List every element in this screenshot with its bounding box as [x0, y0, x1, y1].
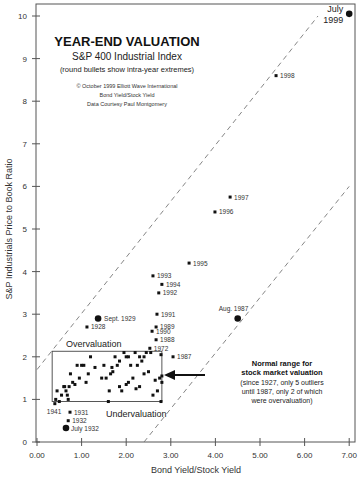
- data-point: [138, 355, 141, 358]
- data-point: [69, 372, 72, 375]
- y-tick-label: 10: [18, 12, 27, 21]
- data-point: [145, 351, 148, 354]
- data-point: [78, 377, 81, 380]
- note-line-2: stock market valuation: [241, 368, 323, 377]
- chart-subtitle-note: (round bullets show intra-year extremes): [60, 65, 195, 74]
- data-point: [67, 398, 70, 401]
- point-label: 1994: [166, 281, 181, 288]
- y-axis-title: S&P Industrials Price to Book Ratio: [4, 159, 14, 300]
- x-tick-label: 4.00: [208, 451, 224, 460]
- point-label: 1988: [160, 336, 175, 343]
- chart-canvas: 0.001.002.003.004.005.006.007.0001234567…: [0, 0, 363, 485]
- data-point: [118, 360, 121, 363]
- point-label: 1972: [154, 345, 169, 352]
- data-point: [148, 347, 151, 350]
- data-point: [66, 394, 69, 397]
- y-tick-label: 9: [23, 55, 28, 64]
- x-tick-label: 5.00: [252, 451, 268, 460]
- extreme-point: [63, 425, 70, 432]
- y-tick-label: 2: [23, 353, 28, 362]
- data-point: [102, 364, 105, 367]
- data-point: [73, 383, 76, 386]
- normal-range-note: Normal range for stock market valuation …: [240, 359, 324, 405]
- y-tick-label: 7: [23, 140, 28, 149]
- x-tick-label: 6.00: [297, 451, 313, 460]
- x-tick-label: 2.00: [118, 451, 134, 460]
- data-point: [156, 389, 159, 392]
- point-label: 1998: [280, 72, 295, 79]
- data-point: [143, 355, 146, 358]
- data-point: [135, 387, 138, 390]
- data-point: [149, 351, 152, 354]
- data-point: [67, 419, 70, 422]
- data-point: [100, 377, 103, 380]
- point-label: 1928: [91, 323, 106, 330]
- y-tick-label: 5: [23, 225, 28, 234]
- y-tick-label: 3: [23, 310, 28, 319]
- extreme-point: [346, 11, 353, 18]
- data-point: [275, 74, 278, 77]
- data-point: [116, 364, 119, 367]
- data-point: [93, 366, 96, 369]
- credit-line-3: Data Courtesy Paul Montgomery: [87, 101, 167, 107]
- data-point: [213, 210, 216, 213]
- y-tick-label: 6: [23, 182, 28, 191]
- data-point: [58, 400, 61, 403]
- data-point: [120, 389, 123, 392]
- point-label: 1932: [72, 417, 87, 424]
- data-point: [56, 389, 59, 392]
- credit-line-1: © October 1999 Elliott Wave Internationa…: [76, 83, 177, 89]
- point-label: 1941: [47, 408, 62, 415]
- data-point: [85, 325, 88, 328]
- data-point: [76, 364, 79, 367]
- data-point: [82, 364, 85, 367]
- data-point: [131, 377, 134, 380]
- data-point: [108, 389, 111, 392]
- point-label: July 1932: [71, 425, 99, 433]
- point-label: 1990: [156, 328, 171, 335]
- data-point: [69, 411, 72, 414]
- point-label: 1995: [193, 260, 208, 267]
- data-point: [129, 364, 132, 367]
- data-point: [151, 394, 154, 397]
- data-point: [110, 366, 113, 369]
- point-label: 1997: [234, 194, 249, 201]
- note-line-1: Normal range for: [252, 359, 313, 368]
- point-label: 1991: [161, 311, 176, 318]
- x-tick-label: 0.00: [29, 451, 45, 460]
- chart-subtitle: S&P 400 Industrial Index: [72, 51, 182, 62]
- data-point: [127, 381, 130, 384]
- data-point: [107, 400, 110, 403]
- point-label: 1992: [163, 289, 178, 296]
- data-point: [138, 385, 141, 388]
- arrow-icon: [164, 370, 205, 380]
- data-point: [54, 398, 57, 401]
- note-line-3: (since 1927, only 5 outliers: [240, 379, 324, 387]
- data-point: [151, 274, 154, 277]
- data-point: [53, 402, 56, 405]
- note-line-5: were overvaluation): [250, 397, 312, 405]
- extreme-point: [95, 315, 102, 322]
- data-point: [114, 355, 117, 358]
- data-point: [118, 385, 121, 388]
- data-point: [154, 379, 157, 382]
- chart-title: YEAR-END VALUATION: [54, 34, 199, 49]
- point-label: 1996: [219, 208, 234, 215]
- x-tick-label: 7.00: [341, 451, 357, 460]
- data-point: [85, 381, 88, 384]
- data-point: [105, 377, 108, 380]
- undervaluation-label: Undervaluation: [106, 409, 167, 419]
- y-tick-label: 1: [23, 395, 28, 404]
- data-point: [111, 370, 114, 373]
- data-point: [127, 355, 130, 358]
- credit-line-2: Bond Yield/Stock Yield: [99, 92, 154, 98]
- data-point: [160, 374, 163, 377]
- y-tick-label: 4: [23, 268, 28, 277]
- data-point: [60, 394, 63, 397]
- point-label: 1987: [177, 353, 192, 360]
- data-point: [188, 262, 191, 265]
- data-point: [147, 370, 150, 373]
- point-label: Aug. 1987: [219, 305, 249, 313]
- data-point: [122, 351, 125, 354]
- data-point: [160, 283, 163, 286]
